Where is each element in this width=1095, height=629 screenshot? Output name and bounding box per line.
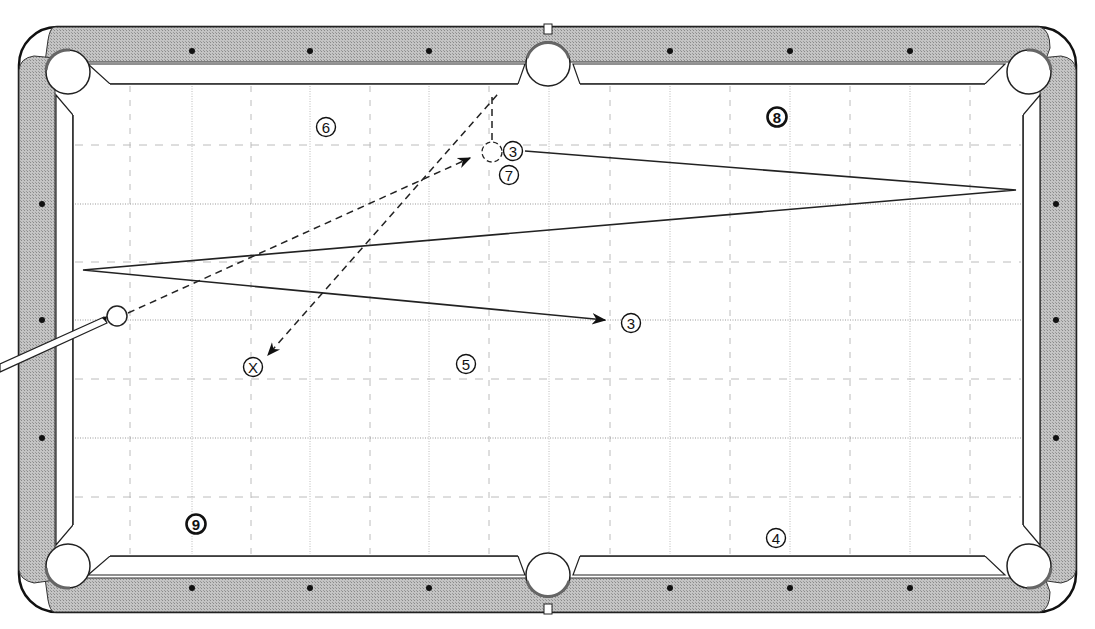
diamond-marker	[189, 48, 195, 54]
diamond-marker	[39, 435, 45, 441]
ball-number: 4	[772, 530, 780, 547]
diamond-marker	[189, 585, 195, 591]
cushion-right	[1023, 95, 1040, 545]
diamond-marker	[667, 48, 673, 54]
diamond-marker	[307, 48, 313, 54]
left-rail	[19, 56, 55, 583]
ball-3-end: 3	[622, 314, 641, 333]
cushion-top-right	[573, 64, 1005, 84]
ball-5: 5	[457, 355, 476, 374]
diamond-marker	[907, 585, 913, 591]
pocket-bottom-left	[46, 544, 90, 588]
billiards-diagram: 637835X94	[0, 0, 1095, 629]
diamond-marker	[787, 48, 793, 54]
diamond-marker	[667, 585, 673, 591]
ball-3-start: 3	[504, 142, 523, 161]
pocket-top-right	[1007, 50, 1051, 94]
diamond-marker	[39, 317, 45, 323]
ball-8: 8	[768, 108, 787, 127]
diamond-marker	[787, 585, 793, 591]
ball-number: 6	[322, 119, 330, 136]
cue-ball	[107, 306, 127, 326]
ball-number: 8	[773, 109, 781, 126]
diamond-marker	[1053, 317, 1059, 323]
cushion-left	[56, 95, 73, 545]
ball-number: 7	[505, 167, 513, 184]
diamond-marker	[907, 48, 913, 54]
ghost-ball	[482, 142, 502, 162]
ball-number: X	[248, 359, 258, 376]
diamond-marker	[1053, 201, 1059, 207]
diamond-marker	[1053, 435, 1059, 441]
ball-9: 9	[187, 515, 206, 534]
pocket-top-left	[46, 50, 90, 94]
pocket-bottom-right	[1007, 544, 1051, 588]
diamond-marker	[39, 201, 45, 207]
ball-7: 7	[500, 166, 519, 185]
diamond-marker	[307, 585, 313, 591]
diamond-marker	[426, 48, 432, 54]
ball-number: 5	[462, 356, 470, 373]
cushion-top-left	[88, 64, 525, 84]
ball-number: 3	[627, 315, 635, 332]
ball-6: 6	[317, 118, 336, 137]
cushion-bottom-left	[88, 556, 525, 575]
cushion-bottom-right	[573, 556, 1005, 575]
ball-number: 9	[192, 516, 200, 533]
ball-4: 4	[767, 529, 786, 548]
diamond-marker	[426, 585, 432, 591]
ball-x: X	[244, 358, 263, 377]
ball-number: 3	[509, 143, 517, 160]
